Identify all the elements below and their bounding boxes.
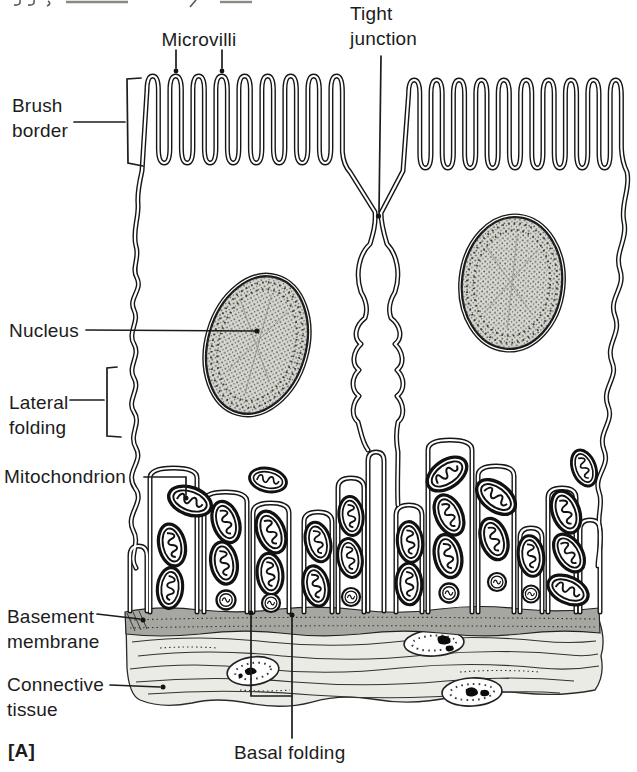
mitochondrion: [207, 540, 240, 586]
mitochondrion: [430, 532, 465, 580]
mitochondrion: [488, 573, 506, 591]
label-basal-folding: Basal folding: [234, 740, 345, 765]
left-cell-nucleus: [187, 260, 327, 429]
mitochondrion: [156, 567, 185, 610]
mitochondrion: [523, 586, 540, 603]
microvilli-pointers: [174, 50, 225, 73]
mitochondrion: [440, 584, 459, 603]
tight-junction-pointer: [376, 56, 381, 219]
cropped-text-artifact: [14, 0, 252, 7]
panel-marker: [A]: [8, 738, 35, 763]
mitochondrion: [250, 507, 291, 557]
label-mitochondrion: Mitochondrion: [4, 464, 126, 489]
mitochondrion: [543, 569, 593, 611]
label-microvilli: Microvilli: [153, 27, 245, 52]
mitochondrion: [165, 481, 216, 522]
mitochondrion: [428, 490, 470, 540]
label-connective-tissue: Connective tissue: [7, 672, 104, 722]
mitochondrion: [217, 591, 236, 610]
mitochondrion: [547, 529, 591, 578]
mitochondrion: [395, 563, 422, 605]
epithelial-cell-diagram: Microvilli Tight junction Brush border N…: [0, 0, 637, 772]
mitochondrion: [337, 495, 365, 536]
label-brush-border: Brush border: [12, 93, 68, 143]
lateral-folding-bracket: [70, 367, 121, 437]
mitochondrion: [247, 465, 288, 495]
right-cell-nucleus: [452, 209, 572, 357]
label-lateral-folding: Lateral folding: [9, 390, 69, 440]
mitochondrion: [255, 552, 285, 596]
label-basement-membrane: Basement membrane: [7, 604, 99, 654]
mitochondrion: [155, 521, 190, 568]
diagram-canvas: [0, 0, 637, 772]
brush-border-bracket: [74, 78, 143, 166]
label-nucleus: Nucleus: [9, 318, 79, 343]
mitochondrion: [262, 594, 280, 612]
label-tight-junction: Tight junction: [350, 1, 417, 51]
mitochondrion: [475, 515, 513, 564]
mitochondrion: [342, 588, 360, 606]
